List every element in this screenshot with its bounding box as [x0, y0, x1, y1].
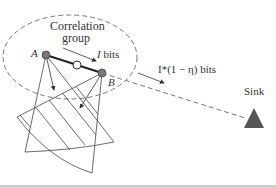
intra-bits-suffix: bits	[101, 48, 120, 60]
relay-node	[73, 61, 81, 69]
bottom-divider	[0, 185, 276, 188]
sink-bits-label: I*(1 − η) bits	[158, 63, 216, 75]
sink-icon	[244, 108, 264, 128]
diagram-graphics	[0, 0, 276, 188]
group-label-line2: group	[62, 32, 90, 44]
node-a	[42, 51, 50, 59]
link-b-sink	[102, 73, 245, 118]
arrow-intra-bits	[63, 48, 96, 61]
node-a-label: A	[31, 47, 38, 59]
intra-bits-label: I bits	[97, 48, 119, 60]
sink-label: Sink	[244, 85, 264, 97]
diagram-canvas: Correlation group A B I bits I*(1 − η) b…	[0, 0, 276, 188]
overlap-hatch	[20, 85, 112, 160]
node-b-label: B	[108, 76, 115, 88]
sensing-sector-b	[17, 73, 102, 173]
